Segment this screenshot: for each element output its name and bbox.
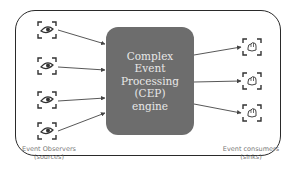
arrow-source-3 (58, 98, 105, 101)
eye-icon (37, 57, 57, 75)
arrow-sink-1 (194, 47, 241, 55)
sources-caption-title: Event Observers (18, 145, 80, 153)
cep-engine-box: Complex Event Processing (CEP) engine (106, 27, 194, 135)
hand-icon (242, 38, 262, 56)
sinks-caption-title: Event consumers (218, 145, 284, 153)
sinks-caption-subtitle: (sinks) (218, 153, 284, 161)
eye-icon (37, 21, 57, 39)
hand-icon (242, 104, 262, 122)
arrow-source-4 (58, 113, 105, 131)
eye-icon (37, 122, 57, 140)
eye-icon (37, 91, 57, 109)
arrow-source-1 (58, 30, 105, 44)
cep-engine-label: Complex Event Processing (CEP) engine (121, 50, 179, 113)
sources-caption-subtitle: (sources) (18, 153, 80, 161)
arrow-source-2 (58, 67, 105, 70)
sources-caption: Event Observers (sources) (18, 145, 80, 161)
sinks-caption: Event consumers (sinks) (218, 145, 284, 161)
hand-icon (242, 72, 262, 90)
arrow-sink-3 (194, 104, 241, 113)
arrow-sink-2 (194, 81, 241, 82)
